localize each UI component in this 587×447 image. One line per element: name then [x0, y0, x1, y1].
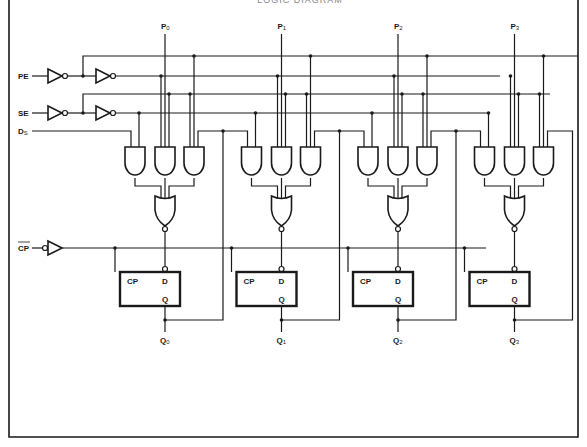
p2-label: P2 — [394, 22, 403, 31]
and-gate-icon — [155, 147, 175, 175]
se-buffer-1-icon — [48, 106, 62, 120]
and-gate-icon — [534, 147, 554, 175]
q0-to-next-wire — [223, 131, 248, 147]
pe-bus-true — [83, 56, 578, 76]
and-gate-icon — [272, 147, 292, 175]
pe-buffer-2-icon — [96, 69, 110, 83]
frame-border — [9, 0, 578, 437]
d-input-bubble — [396, 267, 401, 272]
p0-label: P0 — [161, 22, 170, 31]
logic-diagram: LOGIC DIAGRAM PE SE DS CP CPDQP0Q0CPDQP1… — [0, 0, 587, 447]
p1-label: P1 — [278, 22, 287, 31]
q2-label: Q2 — [393, 336, 403, 345]
diagram-title: LOGIC DIAGRAM — [257, 0, 343, 5]
d-input-bubble — [163, 267, 168, 272]
q1-label: Q1 — [277, 336, 287, 345]
cp-label: CP — [18, 244, 30, 253]
ff-cp-pin-label: CP — [477, 277, 489, 286]
ff-q-pin-label: Q — [395, 295, 401, 304]
ff-cp-pin-label: CP — [244, 277, 256, 286]
d-input-bubble — [279, 267, 284, 272]
and-gate-icon — [242, 147, 262, 175]
and-gate-icon — [301, 147, 321, 175]
ds-label: DS — [18, 127, 28, 136]
se-bus-true — [83, 94, 550, 113]
nor-gate-icon — [388, 196, 408, 226]
register-cell-0: CPDQP0Q0 — [113, 22, 247, 345]
ff-q-pin-label: Q — [279, 295, 285, 304]
nor-gate-icon — [155, 196, 175, 226]
q3-label: Q3 — [510, 336, 520, 345]
ff-d-pin-label: D — [279, 277, 285, 286]
and-gate-icon — [505, 147, 525, 175]
se-buffer-2-icon — [96, 106, 110, 120]
register-cell-2: CPDQP2Q2 — [346, 22, 480, 345]
and-gate-icon — [388, 147, 408, 175]
pe-buffer-1-bubble — [63, 74, 68, 79]
ff-cp-pin-label: CP — [360, 277, 372, 286]
nor-gate-icon — [272, 196, 292, 226]
q1-to-next-wire — [340, 131, 365, 147]
cp-buffer-icon — [48, 241, 62, 255]
nor-output-bubble — [512, 227, 517, 232]
pe-buffer-2-bubble — [111, 74, 116, 79]
and-gate-icon — [125, 147, 145, 175]
q2-to-next-wire — [456, 131, 481, 147]
p3-label: P3 — [511, 22, 520, 31]
ff-d-pin-label: D — [395, 277, 401, 286]
d-input-bubble — [512, 267, 517, 272]
ff-d-pin-label: D — [162, 277, 168, 286]
ff-d-pin-label: D — [512, 277, 518, 286]
and-gate-icon — [358, 147, 378, 175]
and-gate-icon — [417, 147, 437, 175]
q0-label: Q0 — [160, 336, 170, 345]
ds-wire — [32, 131, 131, 147]
nor-output-bubble — [396, 227, 401, 232]
se-label: SE — [18, 109, 29, 118]
register-cell-1: CPDQP1Q1 — [230, 22, 364, 345]
ff-q-pin-label: Q — [512, 295, 518, 304]
and-gate-icon — [475, 147, 495, 175]
nor-output-bubble — [163, 227, 168, 232]
ff-q-pin-label: Q — [162, 295, 168, 304]
pe-buffer-1-icon — [48, 69, 62, 83]
ff-cp-pin-label: CP — [127, 277, 139, 286]
and-gate-icon — [184, 147, 204, 175]
nor-output-bubble — [279, 227, 284, 232]
nor-gate-icon — [505, 196, 525, 226]
pe-label: PE — [18, 72, 29, 81]
register-cell-3: CPDQP3Q3 — [463, 22, 573, 345]
